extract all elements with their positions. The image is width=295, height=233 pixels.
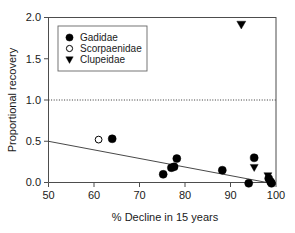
data-point [159,170,167,178]
data-point [245,179,253,187]
data-point [237,21,246,29]
y-axis-ticks: 0.0 0.5 1.0 1.5 2.0 [26,11,49,188]
legend: Gadidae Scorpaenidae Clupeidae [58,26,147,71]
data-point [170,163,178,171]
series-scorpaenidae [95,136,102,143]
y-tick-label-3: 1.5 [26,53,41,65]
data-point [95,136,102,143]
data-point [173,155,181,163]
data-point [250,154,258,162]
legend-label-gadidae: Gadidae [80,32,118,43]
y-tick-label-1: 0.5 [26,135,41,147]
x-tick-label-2: 70 [133,189,145,201]
data-point [218,166,226,174]
legend-marker-filled-circle-icon [66,34,73,41]
y-tick-label-2: 1.0 [26,94,41,106]
x-tick-label-3: 80 [179,189,191,201]
x-axis-title: % Decline in 15 years [112,211,219,223]
data-point [250,164,258,171]
x-tick-label-0: 50 [42,189,54,201]
x-tick-label-5: 100 [267,189,285,201]
series-gadidae [108,135,275,188]
data-point [108,135,116,143]
x-tick-label-1: 60 [88,189,100,201]
data-point [268,179,276,187]
chart-canvas: 0.0 0.5 1.0 1.5 2.0 50 60 70 80 90 100 %… [0,0,295,233]
scatter-plot-figure: 0.0 0.5 1.0 1.5 2.0 50 60 70 80 90 100 %… [0,0,295,233]
legend-marker-open-circle-icon [66,45,72,51]
y-tick-label-4: 2.0 [26,11,41,23]
legend-label-clupeidae: Clupeidae [80,54,125,65]
legend-label-scorpaenidae: Scorpaenidae [80,43,142,54]
y-axis-title: Proportional recovery [6,47,18,152]
x-tick-label-4: 90 [224,189,236,201]
y-tick-label-0: 0.0 [26,176,41,188]
